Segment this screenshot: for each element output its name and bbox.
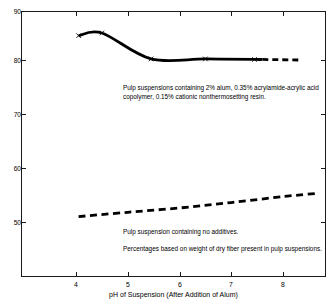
y-tick-mark-80-left — [21, 60, 26, 61]
annotation-basis-note: Percentages based on weight of dry fiber… — [123, 245, 323, 254]
y-tick-mark-70-right — [321, 114, 326, 115]
x-tick-label-5: 5 — [118, 281, 138, 288]
chart-figure: 90 80 70 60 50 4 5 6 7 8 pH of Suspensio… — [0, 0, 333, 305]
x-axis-title: pH of Suspension (After Addition of Alum… — [21, 291, 326, 298]
x-tick-label-4: 4 — [66, 281, 86, 288]
x-tick-label-6: 6 — [170, 281, 190, 288]
y-tick-mark-60-left — [21, 168, 26, 169]
x-tick-mark-7-bottom — [231, 272, 232, 277]
x-tick-mark-8-top — [283, 11, 284, 16]
annotation-lower-curve: Pulp suspension containing no additives. — [123, 228, 323, 237]
x-tick-mark-4-bottom — [76, 272, 77, 277]
y-axis-tick-labels: 90 80 70 60 50 — [0, 0, 21, 305]
x-tick-mark-8-bottom — [283, 272, 284, 277]
y-tick-label-70: 70 — [4, 111, 21, 118]
x-tick-mark-6-bottom — [180, 272, 181, 277]
x-tick-mark-6-top — [180, 11, 181, 16]
y-tick-label-50: 50 — [4, 219, 21, 226]
y-tick-mark-50-left — [21, 222, 26, 223]
y-tick-label-60: 60 — [4, 165, 21, 172]
x-tick-mark-5-bottom — [128, 272, 129, 277]
y-tick-mark-60-right — [321, 168, 326, 169]
x-tick-label-8: 8 — [273, 281, 293, 288]
x-tick-mark-7-top — [231, 11, 232, 16]
y-tick-mark-80-right — [321, 60, 326, 61]
y-tick-mark-70-left — [21, 114, 26, 115]
y-tick-label-80: 80 — [4, 57, 21, 64]
y-tick-label-90: 90 — [4, 8, 21, 15]
annotation-upper-curve: Pulp suspensions containing 2% alum, 0.3… — [123, 84, 323, 101]
x-tick-label-7: 7 — [221, 281, 241, 288]
x-tick-mark-4-top — [76, 11, 77, 16]
plot-area — [21, 11, 326, 277]
y-tick-mark-50-right — [321, 222, 326, 223]
x-tick-mark-5-top — [128, 11, 129, 16]
